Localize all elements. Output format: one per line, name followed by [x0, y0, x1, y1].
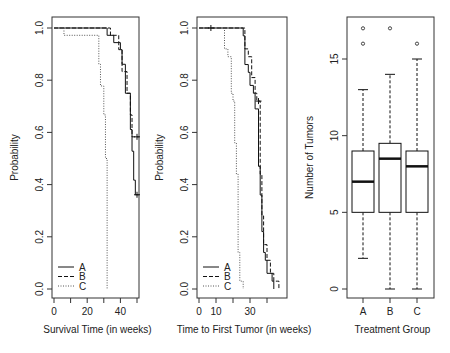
y-tick-label: 15	[329, 53, 340, 65]
x-axis: 02040	[51, 298, 137, 317]
y-tick-label: 0.6	[179, 125, 190, 139]
plot-frame	[197, 17, 287, 298]
y-tick-label: 10	[329, 130, 340, 142]
km-curve-a	[54, 28, 139, 195]
y-tick-label: 1.0	[179, 21, 190, 35]
legend-label: C	[224, 281, 231, 292]
y-tick-label: 0.8	[179, 73, 190, 87]
figure: 0.00.20.40.60.81.002040ProbabilitySurviv…	[0, 0, 450, 353]
y-axis-label: Number of Tumors	[304, 116, 315, 199]
x-axis: 01030	[196, 298, 267, 317]
y-axis: 051015	[329, 53, 347, 292]
box-b	[379, 27, 401, 289]
y-tick-label: 0.4	[179, 177, 190, 191]
x-tick-label: 30	[244, 306, 256, 317]
iqr-box	[406, 151, 428, 212]
y-tick-label: 0.6	[34, 125, 45, 139]
km-curve-c	[54, 28, 107, 289]
y-tick-label: 5	[329, 209, 340, 215]
y-tick-label: 0.2	[34, 229, 45, 243]
x-axis-label: Survival Time (in weeks)	[43, 324, 151, 335]
legend: ABC	[58, 262, 86, 292]
km-curve-b	[54, 28, 139, 137]
legend-label: C	[79, 281, 86, 292]
three-panel-figure: 0.00.20.40.60.81.002040ProbabilitySurviv…	[0, 0, 450, 353]
y-tick-label: 0.4	[34, 177, 45, 191]
x-axis: ABC	[360, 298, 421, 317]
y-axis: 0.00.20.40.60.81.0	[34, 21, 52, 296]
y-axis-label: Probability	[9, 134, 20, 181]
y-tick-label: 0.0	[34, 282, 45, 296]
y-tick-label: 0.0	[179, 282, 190, 296]
iqr-box	[379, 143, 401, 212]
box-c	[406, 42, 428, 289]
y-axis: 0.00.20.40.60.81.0	[179, 21, 197, 296]
x-tick-label: A	[360, 306, 367, 317]
x-tick-label: 10	[210, 306, 222, 317]
x-axis-label: Treatment Group	[355, 324, 431, 335]
outlier-point	[361, 27, 364, 30]
y-axis-label: Probability	[154, 134, 165, 181]
x-tick-label: 0	[51, 306, 57, 317]
km-curve-b	[199, 28, 279, 289]
y-tick-label: 0.2	[179, 229, 190, 243]
box-a	[352, 27, 374, 259]
plot-frame	[52, 17, 139, 298]
x-tick-label: 0	[196, 306, 202, 317]
y-tick-label: 0	[329, 286, 340, 292]
x-tick-label: 40	[115, 306, 127, 317]
x-tick-label: 20	[82, 306, 94, 317]
outlier-point	[361, 42, 364, 45]
outlier-point	[388, 27, 391, 30]
x-tick-label: B	[387, 306, 394, 317]
x-tick-label: C	[413, 306, 420, 317]
outlier-point	[415, 42, 418, 45]
x-axis-label: Time to First Tumor (in weeks)	[177, 324, 312, 335]
y-tick-label: 1.0	[34, 21, 45, 35]
survival-time-km-plot: 0.00.20.40.60.81.002040ProbabilitySurviv…	[9, 17, 152, 335]
y-tick-label: 0.8	[34, 73, 45, 87]
km-curve-c	[199, 28, 243, 289]
number-of-tumors-boxplot: 051015ABCNumber of TumorsTreatment Group	[304, 17, 434, 335]
legend: ABC	[203, 262, 231, 292]
time-to-first-tumor-km-plot: 0.00.20.40.60.81.001030ProbabilityTime t…	[154, 17, 311, 335]
